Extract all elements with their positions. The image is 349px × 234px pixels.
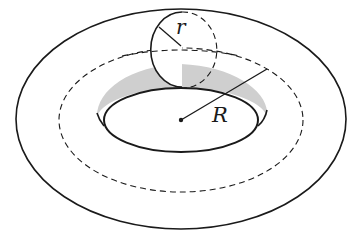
inner-wall-left-edge xyxy=(97,113,104,126)
torus-diagram: r R xyxy=(0,0,349,234)
major-radius-label: R xyxy=(211,103,228,127)
inner-wall-right-edge xyxy=(258,110,267,126)
center-point xyxy=(179,118,183,122)
minor-radius-label: r xyxy=(176,15,187,39)
